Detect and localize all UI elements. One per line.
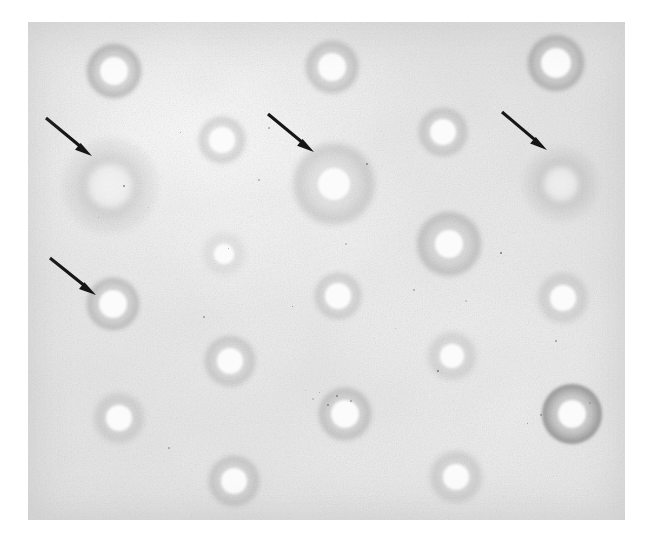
marker-arrow-icon xyxy=(46,118,92,156)
figure-root: Immunodiffusion plate with precipitin ri… xyxy=(0,0,651,555)
arrow-shaft xyxy=(50,258,86,287)
marker-arrow-icon xyxy=(268,114,314,152)
arrow-shaft xyxy=(502,112,538,142)
arrow-shaft xyxy=(268,114,305,144)
marker-arrow-icon xyxy=(502,112,547,150)
marker-arrow-icon xyxy=(50,258,96,295)
arrow-shaft xyxy=(46,118,83,148)
immunodiffusion-plate-photo xyxy=(28,22,625,520)
marker-arrows-layer xyxy=(28,22,625,520)
